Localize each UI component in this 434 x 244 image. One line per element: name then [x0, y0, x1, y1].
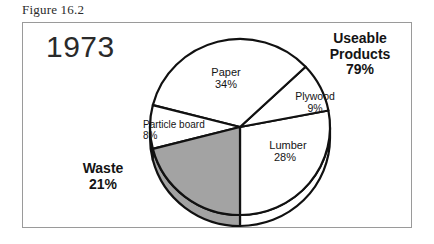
slice-label-lumber: Lumber 28%	[252, 139, 324, 164]
particle-name: Particle board	[143, 119, 235, 130]
paper-percent: 34%	[186, 78, 266, 90]
useable-percent: 79%	[314, 62, 406, 78]
particle-percent: 8%	[143, 130, 235, 141]
paper-name: Paper	[186, 66, 266, 78]
year-label: 1973	[46, 30, 115, 64]
plywood-name: Plywood	[283, 91, 347, 103]
slice-label-particle-board: Particle board 8%	[143, 119, 235, 141]
lumber-percent: 28%	[252, 151, 324, 163]
useable-line1: Useable	[314, 31, 406, 47]
slice-label-paper: Paper 34%	[186, 66, 266, 91]
useable-line2: Products	[314, 47, 406, 63]
useable-products-annotation: Useable Products 79%	[314, 31, 406, 78]
lumber-name: Lumber	[252, 139, 324, 151]
plywood-percent: 9%	[283, 103, 347, 115]
waste-annotation: Waste 21%	[60, 161, 146, 192]
slice-label-plywood: Plywood 9%	[283, 91, 347, 115]
waste-percent: 21%	[60, 177, 146, 193]
waste-name: Waste	[60, 161, 146, 177]
